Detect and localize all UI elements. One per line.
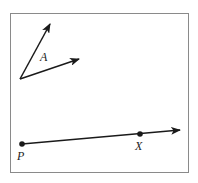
point-p-dot bbox=[19, 141, 25, 147]
angle-label: A bbox=[39, 50, 48, 64]
frame-border bbox=[11, 14, 189, 173]
point-x-dot bbox=[137, 131, 143, 137]
geometry-diagram: A P X bbox=[0, 0, 198, 183]
angle-a: A bbox=[20, 24, 79, 79]
ray-px: P X bbox=[16, 130, 180, 163]
ray-line bbox=[22, 130, 180, 144]
point-p-label: P bbox=[16, 149, 25, 163]
point-x-label: X bbox=[134, 139, 143, 153]
